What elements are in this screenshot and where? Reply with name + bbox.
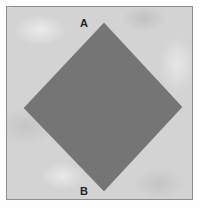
vertex-label-b: B: [80, 186, 88, 197]
figure-frame: A B: [6, 6, 193, 200]
diamond-shape: [7, 7, 193, 200]
diamond-polygon: [24, 23, 182, 191]
figure-root: A B: [0, 0, 200, 208]
vertex-label-a: A: [80, 18, 88, 29]
